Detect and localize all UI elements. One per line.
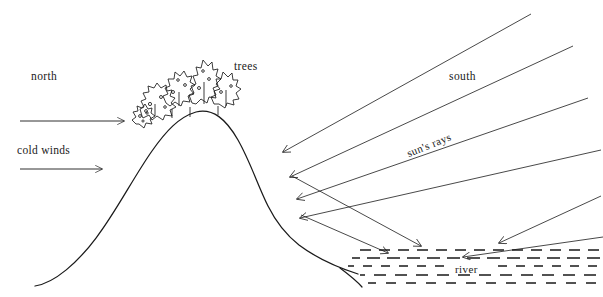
sun-ray-4: [300, 150, 601, 218]
sun-ray-lines: [283, 14, 601, 243]
river-bank-line: [340, 268, 362, 287]
reflected-ray-1: [292, 176, 421, 246]
diagram-canvas: north cold winds trees south sun's rays …: [0, 0, 603, 297]
sun-ray-5: [499, 196, 601, 243]
reflected-ray-3: [463, 237, 603, 257]
sun-ray-3: [297, 98, 588, 199]
diagram-svg: [0, 0, 603, 297]
label-river: river: [455, 263, 478, 275]
tree-cluster: [132, 60, 241, 128]
label-south: south: [449, 70, 476, 82]
label-north: north: [31, 70, 57, 82]
sun-ray-2: [290, 46, 573, 177]
label-cold-winds: cold winds: [17, 144, 70, 156]
label-trees: trees: [234, 60, 258, 72]
